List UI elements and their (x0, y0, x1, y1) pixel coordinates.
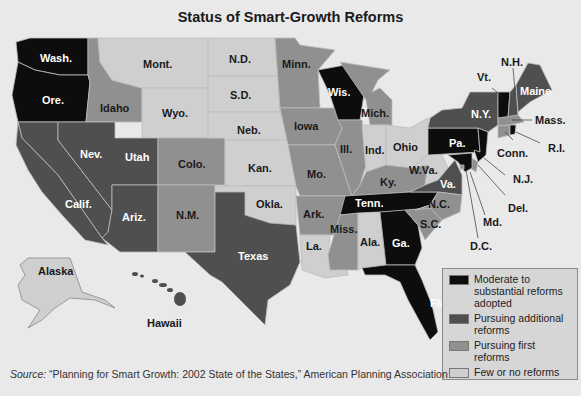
label-neb: Neb. (237, 124, 261, 136)
label-ill: Ill. (340, 143, 352, 155)
legend: Moderate to substantial reforms adopted … (442, 268, 578, 380)
label-utah: Utah (125, 151, 150, 163)
legend-label-moderate-2: substantial reforms (474, 285, 563, 297)
label-sc: S.C. (420, 218, 441, 230)
label-nj: N.J. (513, 173, 533, 185)
label-sd: S.D. (230, 89, 251, 101)
label-va: Va. (440, 178, 456, 190)
legend-swatch-additional (449, 314, 469, 324)
label-del: Del. (508, 202, 528, 214)
label-alaska: Alaska (38, 265, 74, 277)
label-nev: Nev. (80, 148, 102, 160)
legend-item-moderate: Moderate to substantial reforms adopted (449, 273, 573, 309)
label-md: Md. (483, 216, 502, 228)
label-iowa: Iowa (294, 120, 319, 132)
state-conn[interactable] (498, 125, 510, 138)
label-ala: Ala. (360, 236, 380, 248)
label-nd: N.D. (229, 53, 251, 65)
legend-label-moderate-1: Moderate to (474, 273, 530, 285)
label-colo: Colo. (178, 158, 206, 170)
legend-label-additional-2: reforms (474, 324, 510, 336)
label-ri: R.I. (548, 142, 565, 154)
label-ohio: Ohio (393, 141, 418, 153)
label-conn: Conn. (497, 147, 528, 159)
label-wva: W.Va. (409, 164, 438, 176)
label-idaho: Idaho (100, 102, 130, 114)
label-miss: Miss. (330, 223, 358, 235)
state-hawaii[interactable] (132, 272, 186, 306)
label-nc: N.C. (428, 198, 450, 210)
legend-item-first: Pursuing first reforms (449, 339, 573, 363)
label-wyo: Wyo. (162, 107, 188, 119)
label-ore: Ore. (42, 94, 64, 106)
label-mass: Mass. (535, 114, 566, 126)
label-ariz: Ariz. (122, 211, 146, 223)
label-okla: Okla. (256, 198, 283, 210)
legend-swatch-first (449, 341, 469, 351)
label-calif: Calif. (65, 198, 92, 210)
label-ind: Ind. (365, 144, 385, 156)
legend-label-moderate-3: adopted (474, 297, 512, 309)
label-maine: Maine (520, 85, 551, 97)
label-dc: D.C. (470, 240, 492, 252)
legend-label-first: Pursuing first reforms (474, 339, 573, 363)
legend-item-additional: Pursuing additional reforms (449, 312, 573, 336)
label-ark: Ark. (303, 208, 324, 220)
label-mo: Mo. (307, 168, 326, 180)
label-pa: Pa. (449, 137, 466, 149)
state-dc[interactable] (460, 165, 464, 169)
legend-swatch-moderate (449, 275, 469, 285)
legend-swatch-few (449, 368, 469, 378)
label-vt: Vt. (477, 71, 491, 83)
label-texas: Texas (238, 250, 268, 262)
label-ky: Ky. (380, 176, 396, 188)
label-nm: N.M. (176, 209, 199, 221)
label-mont: Mont. (143, 58, 172, 70)
label-tenn: Tenn. (355, 197, 384, 209)
legend-item-few: Few or no reforms (449, 366, 573, 378)
source-citation: Source: “Planning for Smart Growth: 2002… (10, 368, 448, 380)
label-ga: Ga. (392, 237, 410, 249)
label-kan: Kan. (248, 162, 272, 174)
source-prefix: Source: (10, 368, 46, 380)
state-fla[interactable] (362, 265, 438, 340)
label-wash: Wash. (40, 52, 72, 64)
label-mich: Mich. (361, 107, 389, 119)
label-hawaii: Hawaii (147, 317, 182, 329)
label-la: La. (306, 240, 322, 252)
label-nh: N.H. (501, 56, 523, 68)
legend-label-additional-1: Pursuing additional (474, 312, 563, 324)
source-text: “Planning for Smart Growth: 2002 State o… (46, 368, 448, 380)
label-wis: Wis. (328, 86, 351, 98)
label-ny: N.Y. (471, 108, 491, 120)
state-ri[interactable] (510, 125, 516, 135)
label-minn: Minn. (282, 58, 311, 70)
legend-label-few: Few or no reforms (474, 366, 559, 378)
